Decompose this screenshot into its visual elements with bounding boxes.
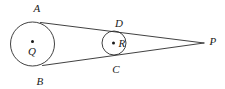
geometry-figure: A B D C P Q R bbox=[0, 0, 225, 89]
center-dot-r bbox=[112, 42, 115, 45]
point-label-p: P bbox=[210, 36, 217, 47]
circle-center-label-r: R bbox=[119, 38, 126, 49]
point-label-a: A bbox=[34, 3, 41, 14]
point-label-d: D bbox=[115, 18, 123, 29]
point-label-b: B bbox=[37, 76, 44, 87]
center-dot-q bbox=[31, 40, 34, 43]
point-label-c: C bbox=[112, 64, 120, 75]
circle-center-label-q: Q bbox=[28, 46, 36, 57]
